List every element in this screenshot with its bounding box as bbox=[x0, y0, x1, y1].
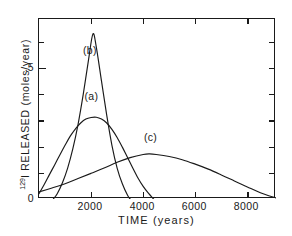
y-tick-right-0.3 bbox=[269, 120, 274, 121]
y-tick-left-0.6 bbox=[39, 42, 44, 43]
x-tick-bottom-8000 bbox=[247, 192, 248, 197]
x-tick-top-2000 bbox=[91, 19, 92, 24]
y-tick-right-0.4 bbox=[269, 94, 274, 95]
x-tick-top-4000 bbox=[143, 19, 144, 24]
curve-c bbox=[39, 154, 276, 198]
curves-svg bbox=[39, 19, 276, 199]
y-tick-left-0.2 bbox=[39, 147, 44, 148]
plot-area bbox=[38, 18, 275, 198]
y-tick-right-0.1 bbox=[269, 173, 274, 174]
x-tick-bottom-4000 bbox=[143, 192, 144, 197]
x-tick-top-6000 bbox=[195, 19, 196, 24]
x-tick-label-2000: 2000 bbox=[78, 200, 103, 212]
y-tick-right-0.2 bbox=[269, 147, 274, 148]
x-axis-title: TIME (years) bbox=[38, 214, 275, 226]
x-tick-label-4000: 4000 bbox=[130, 200, 155, 212]
figure-129i-release-chart: 20004000600080000.5(a)(b)(c) TIME (years… bbox=[0, 0, 292, 236]
y-tick-left-0.1 bbox=[39, 173, 44, 174]
y-tick-left-0.5 bbox=[39, 68, 46, 69]
x-tick-label-8000: 8000 bbox=[234, 200, 259, 212]
curve-label-c: (c) bbox=[144, 131, 157, 143]
y-tick-right-0.5 bbox=[269, 68, 274, 69]
y-tick-right-0.6 bbox=[269, 42, 274, 43]
y-axis-title-text: I RELEASED (moles/year) bbox=[19, 39, 31, 178]
curve-label-b: (b) bbox=[83, 44, 97, 56]
y-axis-title-isotope-superscript: 129 bbox=[19, 178, 26, 190]
x-tick-bottom-2000 bbox=[91, 192, 92, 197]
y-tick-left-0.3 bbox=[39, 120, 44, 121]
curve-label-a: (a) bbox=[85, 90, 99, 102]
y-tick-left-0.4 bbox=[39, 94, 44, 95]
y-axis-title: 129I RELEASED (moles/year) bbox=[19, 23, 32, 205]
x-tick-top-8000 bbox=[247, 19, 248, 24]
curve-b bbox=[53, 34, 130, 199]
x-tick-label-6000: 6000 bbox=[182, 200, 207, 212]
x-tick-bottom-6000 bbox=[195, 192, 196, 197]
